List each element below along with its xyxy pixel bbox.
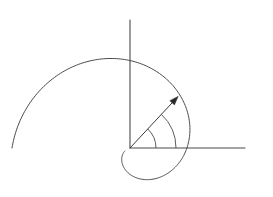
final-wash <box>0 0 273 197</box>
polar-spiral-figure: y x r ϕ <box>0 0 273 197</box>
figure-final <box>0 0 273 197</box>
